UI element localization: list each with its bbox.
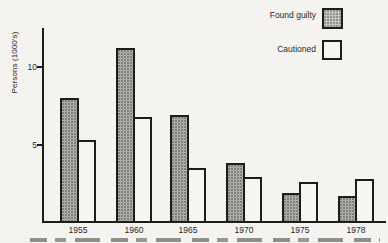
- x-axis-label-1978: 1978: [336, 225, 376, 235]
- x-axis-label-1975: 1975: [280, 225, 320, 235]
- bar-cautioned-1960: [133, 117, 152, 222]
- legend-label-found-guilty: Found guilty: [240, 10, 316, 20]
- bar-cautioned-1978: [355, 179, 374, 222]
- x-axis-label-1955: 1955: [58, 225, 98, 235]
- x-axis-label-1970: 1970: [224, 225, 264, 235]
- bar-cautioned-1965: [187, 168, 206, 222]
- x-axis-line: [42, 221, 386, 223]
- bar-cautioned-1955: [77, 140, 96, 222]
- figure-bar-chart: Persons (1000's) Found guilty Cautioned …: [0, 0, 388, 243]
- bar-cautioned-1970: [243, 177, 262, 222]
- legend-label-cautioned: Cautioned: [240, 44, 316, 54]
- cutoff-caption: [30, 238, 380, 242]
- legend-swatch-found-guilty: [322, 8, 343, 29]
- y-tick-mark-5: [37, 144, 42, 146]
- y-axis-line: [42, 28, 44, 223]
- y-tick-label-5: 5: [15, 140, 37, 150]
- x-axis-label-1960: 1960: [114, 225, 154, 235]
- y-tick-label-10: 10: [15, 62, 37, 72]
- x-axis-label-1965: 1965: [168, 225, 208, 235]
- y-tick-mark-10: [37, 66, 42, 68]
- legend-swatch-cautioned: [322, 40, 342, 60]
- bar-cautioned-1975: [299, 182, 318, 222]
